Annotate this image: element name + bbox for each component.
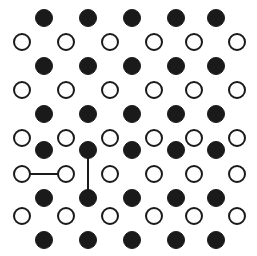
filled-site-marker [208,142,225,159]
lattice-figure [0,0,257,256]
filled-site-marker [124,190,141,207]
filled-site-marker [208,106,225,123]
open-site-marker [146,130,162,146]
filled-site-marker [36,232,53,249]
filled-site-marker [80,58,97,75]
open-site-marker [14,34,30,50]
open-site-marker [146,208,162,224]
open-site-marker [229,166,245,182]
open-site-marker [58,166,74,182]
filled-site-marker [124,10,141,27]
open-site-marker [102,166,118,182]
filled-site-marker [208,58,225,75]
filled-site-marker [168,58,185,75]
filled-site-marker [208,190,225,207]
open-site-marker [58,130,74,146]
filled-site-marker [36,10,53,27]
open-site-marker [146,82,162,98]
open-site-marker [186,82,202,98]
filled-site-marker [124,106,141,123]
open-site-marker [58,34,74,50]
open-site-marker [229,208,245,224]
filled-site-marker [36,190,53,207]
filled-site-marker [124,232,141,249]
filled-site-marker [124,142,141,159]
filled-site-marker [36,106,53,123]
open-site-marker [14,130,30,146]
filled-site-marker [36,58,53,75]
open-site-marker [14,208,30,224]
filled-site-marker [208,232,225,249]
open-site-marker [58,208,74,224]
open-site-marker [229,82,245,98]
open-site-marker [186,34,202,50]
open-site-marker [102,208,118,224]
open-site-marker [102,82,118,98]
filled-site-marker [80,232,97,249]
filled-site-marker [80,106,97,123]
filled-site-marker [80,190,97,207]
open-site-marker [14,82,30,98]
lattice-canvas [0,0,257,256]
open-site-marker [58,82,74,98]
open-site-marker [102,130,118,146]
open-site-marker [186,166,202,182]
filled-site-marker [208,10,225,27]
filled-site-marker [36,142,53,159]
figure-background [0,0,257,256]
filled-site-marker [168,232,185,249]
filled-site-marker [124,58,141,75]
filled-site-marker [80,10,97,27]
open-site-marker [146,166,162,182]
open-site-marker [186,130,202,146]
open-site-marker [102,34,118,50]
open-site-marker [186,208,202,224]
open-site-marker [14,166,30,182]
filled-site-marker [168,142,185,159]
open-site-marker [229,130,245,146]
filled-site-marker [80,142,97,159]
open-site-marker [229,34,245,50]
filled-site-marker [168,106,185,123]
filled-site-marker [168,190,185,207]
filled-site-marker [168,10,185,27]
open-site-marker [146,34,162,50]
